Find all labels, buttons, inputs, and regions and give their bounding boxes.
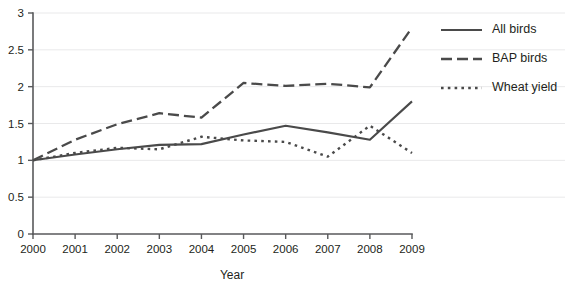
x-tick-label: 2004 [189, 243, 215, 255]
series-line [33, 126, 412, 161]
series-lines [33, 28, 412, 161]
y-tick-label: 2 [18, 81, 24, 93]
y-tick-label: 1.5 [8, 118, 24, 130]
gridlines [33, 13, 565, 197]
x-tick-label: 2009 [399, 243, 425, 255]
series-line [33, 101, 412, 160]
chart-figure: 00.511.522.53 20002001200220032004200520… [0, 0, 573, 286]
line-chart: 00.511.522.53 20002001200220032004200520… [0, 0, 573, 286]
y-tick-label: 0 [18, 228, 24, 240]
series-line [33, 28, 412, 161]
x-axis-title: Year [220, 268, 244, 282]
y-tick-label: 3 [18, 7, 24, 19]
x-axis: 2000200120022003200420052006200720082009 [20, 234, 425, 255]
y-tick-label: 1 [18, 154, 24, 166]
x-tick-label: 2008 [357, 243, 383, 255]
x-tick-label: 2003 [147, 243, 173, 255]
x-tick-label: 2005 [231, 243, 257, 255]
y-tick-label: 2.5 [8, 44, 24, 56]
legend-label: All birds [492, 22, 536, 36]
y-axis: 00.511.522.53 [8, 7, 33, 240]
chart-legend: All birdsBAP birdsWheat yield [441, 22, 557, 94]
x-tick-label: 2006 [273, 243, 299, 255]
x-tick-label: 2001 [62, 243, 88, 255]
x-tick-label: 2002 [104, 243, 130, 255]
legend-label: BAP birds [492, 51, 547, 65]
y-tick-label: 0.5 [8, 191, 24, 203]
legend-label: Wheat yield [492, 80, 557, 94]
x-tick-label: 2000 [20, 243, 46, 255]
x-tick-label: 2007 [315, 243, 341, 255]
